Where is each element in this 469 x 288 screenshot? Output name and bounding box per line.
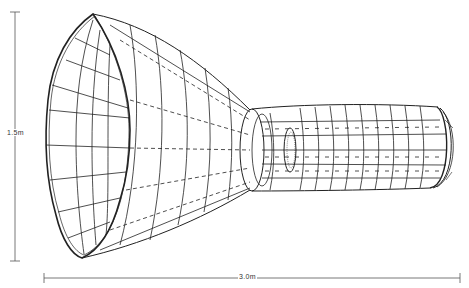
- height-dimension-line: [10, 12, 20, 261]
- net-mouth: [46, 14, 130, 258]
- net-diagram: [0, 0, 469, 288]
- net-end-cap: [430, 107, 453, 188]
- net-codend: [252, 105, 447, 191]
- height-label: 1.5m: [6, 129, 25, 136]
- length-label: 3.0m: [238, 273, 257, 280]
